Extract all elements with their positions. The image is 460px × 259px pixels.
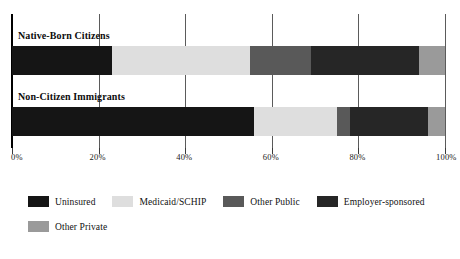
bar-segment-medicaid-schip bbox=[254, 107, 336, 136]
legend-label: Other Private bbox=[55, 222, 107, 232]
bar-segment-employer-sponsored bbox=[350, 107, 428, 136]
tick-label-0pct: 0% bbox=[11, 152, 23, 162]
legend-row-secondary: Other Private bbox=[28, 221, 124, 232]
legend-swatch-icon bbox=[28, 196, 49, 207]
bar-segment-other-private bbox=[419, 46, 445, 75]
group-label-non-citizen: Non-Citizen Immigrants bbox=[18, 91, 125, 102]
legend-label: Uninsured bbox=[55, 197, 95, 207]
legend-swatch-icon bbox=[28, 221, 49, 232]
legend-item-other-public[interactable]: Other Public bbox=[223, 196, 299, 207]
tick-label-20pct: 20% bbox=[90, 152, 106, 162]
bar-native-born-citizens bbox=[12, 46, 445, 75]
tick-label-60pct: 60% bbox=[263, 152, 279, 162]
bar-segment-other-public bbox=[250, 46, 311, 75]
tick-label-80pct: 80% bbox=[349, 152, 365, 162]
group-label-native-born: Native-Born Citizens bbox=[18, 30, 110, 41]
bar-segment-other-private bbox=[428, 107, 445, 136]
gridline-100pct bbox=[445, 14, 446, 148]
legend-item-uninsured[interactable]: Uninsured bbox=[28, 196, 95, 207]
legend-label: Medicaid/SCHIP bbox=[139, 197, 206, 207]
tick-label-100pct: 100% bbox=[436, 152, 457, 162]
legend-item-medicaid-schip[interactable]: Medicaid/SCHIP bbox=[112, 196, 206, 207]
legend-label: Employer-sponsored bbox=[344, 197, 425, 207]
plot-area: 0%20%40%60%80%100% Native-Born Citizens … bbox=[0, 0, 460, 160]
bar-segment-medicaid-schip bbox=[112, 46, 251, 75]
legend-swatch-icon bbox=[317, 196, 338, 207]
tick-label-40pct: 40% bbox=[176, 152, 192, 162]
legend-item-other-private[interactable]: Other Private bbox=[28, 221, 107, 232]
legend-row-primary: UninsuredMedicaid/SCHIPOther PublicEmplo… bbox=[28, 196, 442, 207]
bar-segment-uninsured bbox=[12, 46, 112, 75]
bar-segment-other-public bbox=[337, 107, 350, 136]
chart-legend: UninsuredMedicaid/SCHIPOther PublicEmplo… bbox=[0, 188, 460, 259]
stacked-bar-chart: 0%20%40%60%80%100% Native-Born Citizens … bbox=[0, 0, 460, 259]
bar-segment-employer-sponsored bbox=[311, 46, 419, 75]
bar-non-citizen-immigrants bbox=[12, 107, 445, 136]
legend-label: Other Public bbox=[250, 197, 299, 207]
bar-segment-uninsured bbox=[12, 107, 254, 136]
legend-swatch-icon bbox=[112, 196, 133, 207]
legend-swatch-icon bbox=[223, 196, 244, 207]
legend-item-employer-sponsored[interactable]: Employer-sponsored bbox=[317, 196, 425, 207]
